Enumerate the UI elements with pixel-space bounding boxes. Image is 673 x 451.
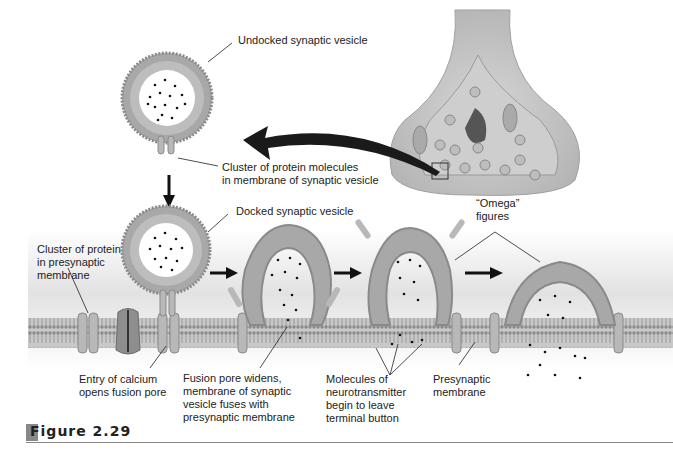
caption-divider [26, 442, 673, 443]
figure-caption: Figure 2.29 [30, 423, 131, 439]
calcium-channel [116, 309, 140, 355]
label-vesicle-protein-cluster: Cluster of protein molecules in membrane… [222, 161, 379, 187]
down-arrow-icon [163, 175, 175, 208]
label-docked-vesicle: Docked synaptic vesicle [236, 205, 353, 218]
label-neurotransmitter-release: Molecules of neurotransmitter begin to l… [326, 373, 406, 425]
label-calcium-entry: Entry of calcium opens fusion pore [79, 373, 166, 399]
label-membrane-protein-cluster: Cluster of protein in presynaptic membra… [37, 243, 121, 282]
undocked-vesicle [122, 53, 212, 154]
label-presynaptic-membrane: Presynaptic membrane [433, 373, 490, 399]
label-undocked-vesicle: Undocked synaptic vesicle [238, 34, 368, 47]
label-fusion-pore: Fusion pore widens, membrane of synaptic… [183, 372, 295, 424]
label-omega-figures: “Omega” figures [476, 197, 519, 223]
